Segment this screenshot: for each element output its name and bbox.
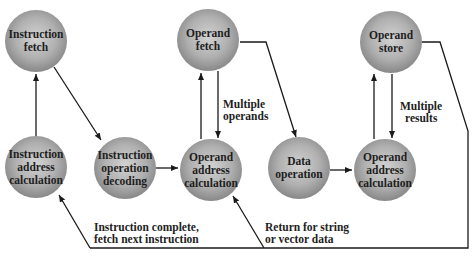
edge-of-to-do [240,42,296,137]
node-label: calculation [9,174,63,186]
node-instruction-address-calculation: Instruction address calculation [5,136,67,198]
node-operand-address-calculation-2: Operand address calculation [354,139,416,201]
node-data-operation: Data operation [268,137,330,199]
edge-label-instruction-complete-2: fetch next instruction [94,233,199,245]
node-label: calculation [358,177,412,189]
node-label: Data [287,155,311,167]
node-label: address [192,164,230,176]
edge-loop-to-oac1 [233,196,264,248]
node-label: Instruction [98,149,154,161]
node-label: Instruction [9,28,65,40]
node-label: decoding [103,175,147,188]
node-operand-store: Operand store [360,11,422,73]
node-label: Operand [189,151,234,164]
node-operand-fetch: Operand fetch [177,9,239,71]
node-label: Operand [363,151,408,164]
node-label: Operand [369,29,414,42]
instruction-cycle-diagram: Instruction fetch Operand fetch Operand … [0,0,475,259]
edge-loop-to-iac [59,195,90,248]
node-instruction-operation-decoding: Instruction operation decoding [94,137,156,199]
node-operand-address-calculation-1: Operand address calculation [180,139,242,201]
node-label: address [17,161,55,173]
node-label: calculation [184,177,238,189]
node-instruction-fetch: Instruction fetch [5,10,67,72]
edge-label-return-string-2: or vector data [265,233,334,245]
edge-label-multiple-results-2: results [405,112,438,124]
node-label: store [379,42,403,54]
node-label: operation [101,162,149,175]
node-label: Operand [186,27,231,40]
node-label: fetch [196,40,221,52]
node-label: fetch [24,41,49,53]
node-label: Instruction [9,148,65,160]
node-label: address [366,164,404,176]
edge-if-to-iod [54,67,101,140]
edge-label-multiple-operands-2: operands [223,110,269,123]
node-label: operation [275,168,323,181]
